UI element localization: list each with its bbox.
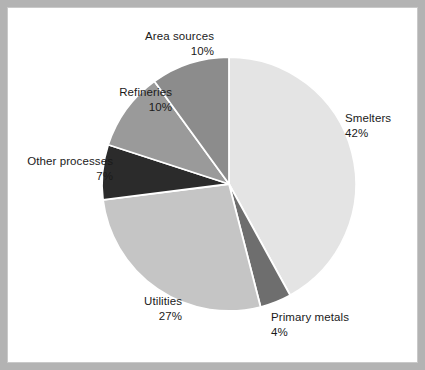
- pie-label-utilities-name: Utilities: [30, 294, 182, 309]
- pie-label-other-processes-name: Other processes: [2, 154, 113, 169]
- pie-label-smelters-value: 42%: [345, 126, 425, 141]
- pie-label-primary-metals-name: Primary metals: [271, 310, 421, 325]
- pie-label-utilities: Utilities 27%: [30, 294, 182, 324]
- pie-label-other-processes: Other processes 7%: [2, 154, 113, 184]
- pie-label-refineries-name: Refineries: [2, 85, 172, 100]
- pie-label-refineries: Refineries 10%: [2, 85, 172, 115]
- pie-label-refineries-value: 10%: [2, 100, 172, 115]
- pie-plot-area: Area sources 10% Refineries 10% Other pr…: [0, 0, 425, 370]
- pie-label-primary-metals: Primary metals 4%: [271, 310, 421, 340]
- pie-label-utilities-value: 27%: [30, 309, 182, 324]
- pie-label-area-sources: Area sources 10%: [44, 29, 214, 59]
- pie-label-smelters: Smelters 42%: [345, 111, 425, 141]
- pie-label-smelters-name: Smelters: [345, 111, 425, 126]
- pie-label-area-sources-value: 10%: [44, 44, 214, 59]
- pie-label-primary-metals-value: 4%: [271, 325, 421, 340]
- pie-chart-figure: Area sources 10% Refineries 10% Other pr…: [0, 0, 425, 370]
- pie-label-area-sources-name: Area sources: [44, 29, 214, 44]
- pie-label-other-processes-value: 7%: [2, 169, 113, 184]
